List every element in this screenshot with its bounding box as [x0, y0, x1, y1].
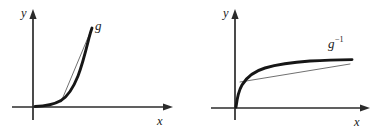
y-axis-arrow-left	[29, 9, 36, 19]
curve-label-g-inverse: g −1	[328, 35, 344, 51]
figure-pair: g y x g −1 y x	[0, 0, 389, 134]
graph-of-g-inverse-panel: g −1 y x	[195, 0, 389, 134]
y-axis-label-right: y	[221, 6, 229, 20]
x-axis-label-right: x	[353, 115, 360, 129]
y-axis-label-left: y	[19, 6, 27, 20]
graph-of-g-panel: g y x	[0, 0, 195, 134]
curve-g	[35, 28, 92, 107]
y-axis-arrow-right	[231, 9, 238, 19]
x-axis-arrow-right	[360, 104, 370, 111]
x-axis-label-left: x	[156, 114, 163, 128]
curve-label-g: g	[95, 18, 102, 33]
curve-label-g-inverse-base: g	[328, 36, 335, 51]
x-axis-arrow-left	[163, 103, 173, 110]
curve-label-g-inverse-superscript: −1	[335, 35, 344, 44]
